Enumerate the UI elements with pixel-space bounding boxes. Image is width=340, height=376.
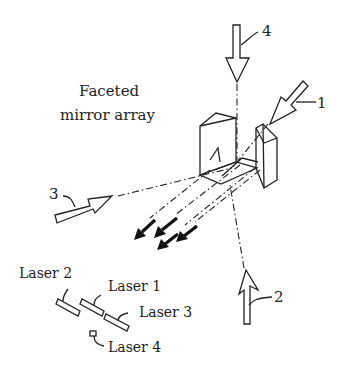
beam-4-label: 4 xyxy=(262,22,272,40)
faceted-mirror-diagram: Faceted mirror array 4 1 3 2 xyxy=(0,0,340,376)
title-line-1: Faceted xyxy=(79,82,140,100)
beam-4-arrow: 4 xyxy=(226,22,272,82)
beam-1-label: 1 xyxy=(317,94,327,112)
beam-1-arrow: 1 xyxy=(270,81,327,124)
title-line-2: mirror array xyxy=(60,106,156,124)
laser-4-label: Laser 4 xyxy=(108,339,161,355)
beam-3-arrow: 3 xyxy=(49,185,112,223)
laser-3-label: Laser 3 xyxy=(139,304,192,320)
laser-4-element xyxy=(90,331,96,336)
laser-1-element xyxy=(80,299,104,316)
beam-2-arrow: 2 xyxy=(239,270,284,324)
output-arrows xyxy=(134,218,197,250)
beam-3-label: 3 xyxy=(49,185,59,203)
beam-2-label: 2 xyxy=(274,288,284,306)
lasers: Laser 2 Laser 1 Laser 3 Laser 4 xyxy=(19,265,192,355)
laser-2-label: Laser 2 xyxy=(19,265,72,281)
laser-2-element xyxy=(56,299,80,316)
faceted-mirror-array xyxy=(200,113,277,188)
laser-1-label: Laser 1 xyxy=(108,278,161,294)
laser-3-element xyxy=(104,314,129,331)
